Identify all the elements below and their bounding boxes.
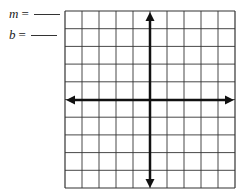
y-axis-up-arrow-icon <box>146 12 155 21</box>
y-axis-down-arrow-icon <box>146 179 155 188</box>
coordinate-grid <box>0 0 243 196</box>
x-axis-left-arrow-icon <box>66 96 75 105</box>
x-axis-right-arrow-icon <box>225 96 234 105</box>
